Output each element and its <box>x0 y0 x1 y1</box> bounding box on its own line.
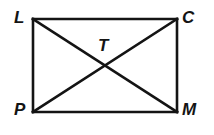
geometry-figure: L C P M T <box>0 0 214 135</box>
vertex-label-M: M <box>182 101 196 118</box>
vertex-label-T: T <box>98 37 108 54</box>
vertex-label-P: P <box>14 101 25 118</box>
vertex-label-C: C <box>182 9 194 26</box>
vertex-label-L: L <box>14 9 24 26</box>
